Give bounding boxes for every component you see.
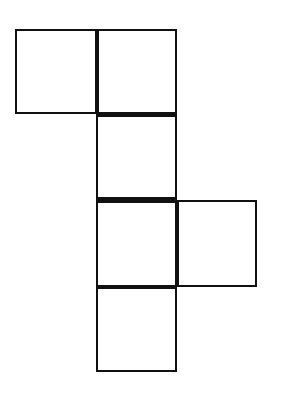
face-bottom-center [96,285,177,372]
face-middle-right [175,200,257,287]
face-middle-center-1 [96,113,177,199]
face-top-left [15,29,97,114]
face-top-center [95,29,177,114]
face-middle-center-2 [96,199,177,288]
